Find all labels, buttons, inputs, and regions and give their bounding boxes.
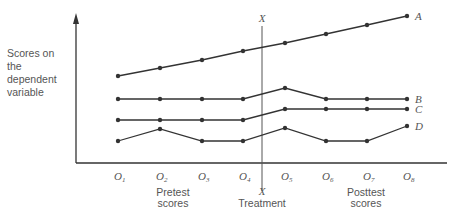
- observation-labels: O1O2O3O4O5O6O7O8: [114, 170, 415, 184]
- caption-line: scores: [145, 198, 201, 209]
- data-point: [241, 49, 245, 53]
- data-point: [405, 107, 409, 111]
- series-label-c: C: [415, 103, 423, 115]
- observation-label: O8: [403, 170, 415, 184]
- y-label-line: Scores on: [7, 47, 77, 60]
- data-point: [241, 139, 245, 143]
- data-point: [365, 107, 369, 111]
- data-point: [283, 86, 287, 90]
- data-point: [241, 118, 245, 122]
- data-point: [158, 127, 162, 131]
- data-point: [116, 118, 120, 122]
- treatment-caption: Treatment: [238, 197, 286, 209]
- observation-label: O2: [156, 170, 168, 184]
- data-point: [116, 74, 120, 78]
- series-b: B: [116, 86, 422, 105]
- y-label-line: dependent: [7, 73, 77, 86]
- diagram-canvas: ABCD X X Treatment O1O2O3O4O5O6O7O8: [0, 0, 459, 216]
- series-label-a: A: [414, 10, 422, 22]
- pretest-caption: Pretest scores: [145, 187, 201, 209]
- observation-label: O4: [239, 170, 251, 184]
- y-label-line: variable: [7, 86, 77, 99]
- observation-label: O5: [281, 170, 293, 184]
- series-label-d: D: [414, 120, 423, 132]
- treatment-top-label: X: [258, 12, 267, 24]
- data-point: [365, 97, 369, 101]
- caption-line: scores: [336, 198, 396, 209]
- observation-label: O3: [198, 170, 210, 184]
- data-point: [324, 97, 328, 101]
- series-a: A: [116, 10, 422, 78]
- data-point: [200, 139, 204, 143]
- data-point: [116, 139, 120, 143]
- data-point: [405, 97, 409, 101]
- data-point: [283, 41, 287, 45]
- data-point: [158, 97, 162, 101]
- data-point: [200, 118, 204, 122]
- observation-label: O6: [322, 170, 334, 184]
- observation-label: O7: [363, 170, 375, 184]
- series-c: C: [116, 103, 423, 122]
- data-point: [241, 97, 245, 101]
- data-point: [116, 97, 120, 101]
- series-d: D: [116, 120, 423, 143]
- y-axis-label: Scores on the dependent variable: [7, 47, 77, 99]
- data-point: [365, 139, 369, 143]
- data-point: [200, 58, 204, 62]
- treatment-bottom-label: X: [258, 185, 267, 197]
- data-point: [158, 66, 162, 70]
- data-point: [324, 107, 328, 111]
- posttest-caption: Posttest scores: [336, 187, 396, 209]
- data-point: [365, 23, 369, 27]
- data-point: [158, 118, 162, 122]
- series-layer: ABCD: [116, 10, 423, 143]
- y-axis-arrow-icon: [73, 13, 79, 24]
- observation-label: O1: [114, 170, 125, 184]
- data-point: [283, 107, 287, 111]
- data-point: [405, 124, 409, 128]
- data-point: [283, 126, 287, 130]
- data-point: [324, 32, 328, 36]
- y-label-line: the: [7, 60, 77, 73]
- data-point: [200, 97, 204, 101]
- data-point: [405, 14, 409, 18]
- data-point: [324, 139, 328, 143]
